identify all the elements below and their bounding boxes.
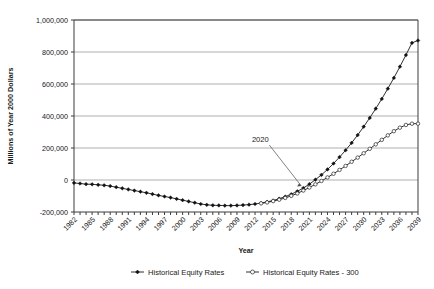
x-tick-label: 2012 (242, 215, 260, 233)
x-tick-label: 2033 (369, 215, 387, 233)
y-tick-label: 0 (64, 176, 68, 185)
data-point-marker (326, 176, 330, 180)
data-point-marker (145, 191, 149, 195)
data-point-marker (199, 202, 203, 206)
data-point-marker (368, 147, 372, 151)
data-point-marker (217, 204, 221, 208)
data-point-marker (126, 188, 130, 192)
y-tick-label: 400,000 (42, 112, 68, 121)
x-tick-label: 2024 (315, 215, 333, 233)
y-tick-label: -200,000 (40, 208, 68, 217)
data-point-marker (90, 182, 94, 186)
data-point-marker (350, 160, 354, 164)
y-axis-tick-labels: 1,000,000800,000600,000400,000200,0000-2… (36, 16, 68, 217)
data-point-marker (187, 200, 191, 204)
x-tick-label: 2018 (278, 215, 296, 233)
data-point-marker (283, 196, 287, 200)
data-point-marker (410, 41, 414, 45)
legend-label: Historical Equity Rates (148, 268, 225, 277)
x-tick-label: 1988 (97, 215, 115, 233)
data-point-marker (416, 122, 420, 126)
x-axis-title: Year (238, 246, 253, 255)
series-1 (72, 39, 420, 208)
y-tick-label: 1,000,000 (36, 16, 68, 25)
data-point-marker (72, 181, 76, 185)
data-point-marker (362, 152, 366, 156)
data-series-layer (72, 39, 420, 208)
annotation-label-2020: 2020 (252, 135, 269, 144)
data-point-marker (253, 202, 257, 206)
data-point-marker (392, 76, 396, 80)
data-point-marker (271, 199, 275, 203)
data-point-marker (265, 201, 269, 205)
legend: Historical Equity RatesHistorical Equity… (131, 268, 359, 277)
x-tick-label: 1994 (134, 215, 152, 233)
x-tick-label: 2036 (387, 215, 405, 233)
x-tick-label: 2003 (188, 215, 206, 233)
legend-item-2[interactable]: Historical Equity Rates - 300 (246, 268, 359, 277)
data-point-marker (416, 39, 420, 43)
data-point-marker (139, 190, 143, 194)
data-point-marker (308, 186, 312, 190)
y-tick-label: 200,000 (42, 144, 68, 153)
data-point-marker (211, 203, 215, 207)
data-point-marker (386, 87, 390, 91)
data-point-marker (302, 189, 306, 193)
data-point-marker (247, 203, 251, 207)
x-tick-label: 1985 (79, 215, 97, 233)
data-point-marker (398, 65, 402, 69)
data-point-marker (398, 126, 402, 129)
data-point-marker (356, 156, 360, 160)
data-point-marker (84, 182, 88, 186)
data-point-marker (193, 201, 197, 205)
x-tick-label: 2009 (224, 215, 242, 233)
x-tick-label: 2000 (170, 215, 188, 233)
data-point-marker (392, 129, 396, 133)
legend-item-1[interactable]: Historical Equity Rates (131, 268, 225, 277)
legend-marker-filled-diamond-icon (136, 270, 140, 274)
data-point-marker (344, 164, 348, 168)
data-point-marker (386, 134, 390, 138)
data-point-marker (151, 192, 155, 196)
data-point-marker (332, 172, 336, 176)
x-tick-label: 2027 (333, 215, 351, 233)
data-point-marker (163, 195, 167, 199)
data-point-marker (229, 204, 233, 208)
y-tick-label: 800,000 (42, 48, 68, 57)
data-point-marker (114, 185, 118, 189)
data-point-marker (320, 179, 324, 183)
legend-marker-open-circle-icon (251, 270, 255, 274)
data-point-marker (338, 168, 342, 172)
data-point-marker (410, 122, 414, 126)
data-point-marker (108, 184, 112, 188)
gridlines (71, 20, 418, 212)
data-point-marker (380, 138, 384, 142)
data-point-marker (404, 123, 408, 127)
data-point-marker (259, 202, 263, 206)
x-tick-label: 2015 (260, 215, 278, 233)
data-point-marker (120, 186, 124, 190)
x-tick-label: 2039 (405, 215, 423, 233)
data-point-marker (314, 183, 318, 187)
chart-container: 1,000,000800,000600,000400,000200,0000-2… (0, 0, 434, 289)
data-point-marker (296, 192, 300, 196)
x-tick-label: 2030 (351, 215, 369, 233)
x-tick-label: 1997 (152, 215, 170, 233)
data-point-marker (133, 189, 137, 193)
data-point-marker (175, 197, 179, 201)
data-point-marker (235, 204, 239, 208)
x-tick-label: 1991 (116, 215, 134, 233)
annotation-layer: 2020 (252, 135, 301, 187)
data-point-marker (102, 183, 106, 187)
data-point-marker (205, 203, 209, 207)
data-point-marker (223, 204, 227, 208)
data-point-marker (374, 143, 378, 147)
y-axis-title: Millions of Year 2000 Dollars (6, 68, 15, 165)
y-tick-label: 600,000 (42, 80, 68, 89)
data-point-marker (290, 194, 294, 198)
data-point-marker (157, 194, 161, 198)
data-point-marker (96, 183, 100, 187)
legend-label: Historical Equity Rates - 300 (263, 268, 359, 277)
data-point-marker (277, 198, 281, 202)
data-point-marker (404, 53, 408, 57)
